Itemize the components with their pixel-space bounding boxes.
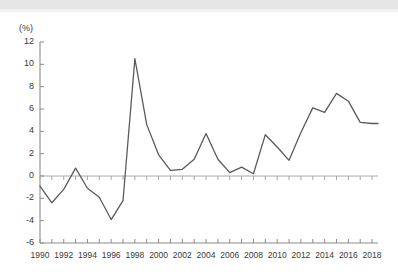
screenshot-page: (%) 121086420-2-4-6 19901992199419961998…	[0, 0, 398, 279]
y-axis-tick-label: 4	[12, 125, 34, 135]
y-axis-tick-label: 10	[12, 58, 34, 68]
x-axis-tick-label: 2018	[357, 250, 387, 260]
y-axis-tick-label: -2	[12, 192, 34, 202]
y-axis-tick-label: -4	[12, 215, 34, 225]
line-chart-figure: (%) 121086420-2-4-6 19901992199419961998…	[0, 0, 398, 279]
y-axis-tick-label: 8	[12, 81, 34, 91]
y-axis-unit-label: (%)	[19, 23, 33, 33]
chart-canvas	[0, 0, 398, 279]
y-axis-tick-label: 0	[12, 170, 34, 180]
y-axis-tick-label: 6	[12, 103, 34, 113]
y-axis-tick-label: 12	[12, 36, 34, 46]
y-axis-tick-label: 2	[12, 148, 34, 158]
chart-tick-marks	[40, 42, 372, 243]
chart-axes	[40, 42, 378, 243]
y-axis-tick-label: -6	[12, 237, 34, 247]
chart-data-line	[40, 59, 378, 220]
